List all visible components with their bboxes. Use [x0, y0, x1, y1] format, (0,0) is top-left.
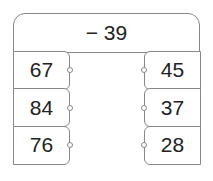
connector-dot-icon — [141, 105, 147, 111]
output-value: 37 — [161, 96, 184, 120]
output-value: 45 — [161, 58, 184, 82]
output-cell: 45 — [144, 51, 201, 90]
connector-dot-icon — [67, 67, 73, 73]
connector-dot-icon — [67, 142, 73, 148]
input-value: 67 — [30, 58, 53, 82]
connector-dot-icon — [67, 105, 73, 111]
connector-dot-icon — [141, 67, 147, 73]
connector-dot-icon — [141, 142, 147, 148]
input-cell: 76 — [13, 126, 70, 165]
operation-label: − 39 — [86, 21, 127, 45]
output-cell: 37 — [144, 88, 201, 127]
input-column: 67 84 76 — [13, 52, 70, 165]
operation-header: − 39 — [13, 13, 200, 53]
output-column: 45 37 28 — [144, 52, 201, 165]
output-cell: 28 — [144, 126, 201, 165]
input-value: 76 — [30, 133, 53, 157]
output-value: 28 — [161, 133, 184, 157]
input-cell: 84 — [13, 88, 70, 127]
input-value: 84 — [30, 96, 53, 120]
input-cell: 67 — [13, 51, 70, 90]
